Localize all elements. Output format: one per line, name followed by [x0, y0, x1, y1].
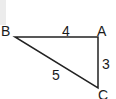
- side-label-bc: 5: [52, 68, 60, 82]
- side-label-ba: 4: [62, 24, 70, 38]
- vertex-label-c: C: [98, 88, 108, 99]
- triangle-figure: [0, 0, 116, 99]
- vertex-label-b: B: [1, 24, 10, 38]
- side-label-ac: 3: [102, 57, 110, 71]
- vertex-label-a: A: [97, 24, 106, 38]
